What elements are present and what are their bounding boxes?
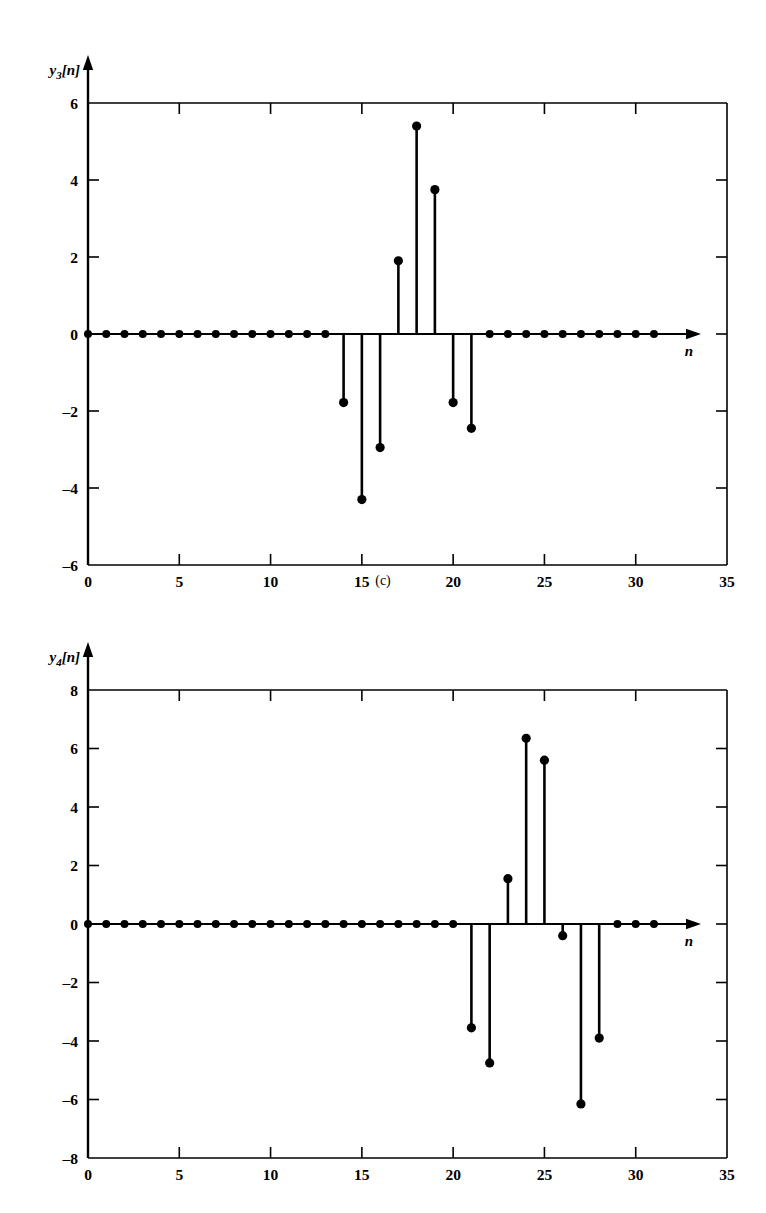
y-tick-label-0: 0 (70, 916, 78, 933)
data-point-n26 (559, 330, 567, 338)
y-axis-label: y3[n] (47, 62, 80, 81)
data-point-n12 (303, 920, 311, 928)
data-point-n4 (157, 920, 165, 928)
y-axis-label-text: y4[n] (47, 649, 80, 668)
data-point-n12 (303, 330, 311, 338)
data-point-n18 (413, 920, 421, 928)
data-point-n6 (194, 330, 202, 338)
data-point-n8 (230, 330, 238, 338)
data-point-n22 (485, 1058, 494, 1067)
data-point-n9 (248, 920, 256, 928)
stem-series (84, 122, 658, 505)
data-point-n25 (540, 756, 549, 765)
data-point-n1 (102, 330, 110, 338)
data-point-n3 (139, 330, 147, 338)
data-point-n11 (285, 920, 293, 928)
data-point-n7 (212, 330, 220, 338)
y-tick-label-4: 4 (70, 172, 78, 189)
x-axis-arrow-icon (686, 329, 701, 339)
data-point-n27 (577, 330, 585, 338)
chart-d: –8–6–4–20246805101520253035ny4[n] (0, 600, 766, 1213)
data-point-n14 (340, 920, 348, 928)
data-point-n5 (175, 920, 183, 928)
y-axis-label: y4[n] (47, 649, 80, 668)
data-point-n28 (595, 1033, 604, 1042)
y-axis-arrow-icon (83, 642, 93, 657)
y-tick-label--4: –4 (62, 1033, 79, 1050)
x-axis-label-n: n (685, 343, 693, 359)
data-point-n19 (431, 920, 439, 928)
data-point-n24 (522, 734, 531, 743)
data-point-n2 (121, 330, 129, 338)
data-point-n25 (540, 330, 548, 338)
panel-c-caption: (c) (0, 573, 766, 589)
x-tick-label-25: 25 (537, 1166, 553, 1183)
x-tick-label-10: 10 (263, 1166, 279, 1183)
x-tick-label-0: 0 (84, 1166, 92, 1183)
y-tick-label-8: 8 (70, 682, 78, 699)
data-point-n15 (358, 920, 366, 928)
data-point-n30 (632, 920, 640, 928)
data-point-n23 (503, 874, 512, 883)
data-point-n16 (376, 443, 385, 452)
chart-c: –6–4–2024605101520253035ny3[n] (0, 0, 766, 600)
x-tick-label-5: 5 (175, 1166, 183, 1183)
plot-panel-d: –8–6–4–20246805101520253035ny4[n] (d) (0, 600, 766, 1213)
data-point-n5 (175, 330, 183, 338)
data-point-n9 (248, 330, 256, 338)
data-point-n21 (467, 1023, 476, 1032)
data-point-n28 (595, 330, 603, 338)
y-tick-label-4: 4 (70, 799, 78, 816)
y-tick-label-2: 2 (70, 249, 78, 266)
data-point-n8 (230, 920, 238, 928)
data-point-n1 (102, 920, 110, 928)
data-point-n3 (139, 920, 147, 928)
data-point-n2 (121, 920, 129, 928)
y-tick-label--6: –6 (62, 1091, 79, 1108)
data-point-n0 (84, 330, 92, 338)
y-tick-label-0: 0 (70, 326, 78, 343)
x-axis-label-n: n (685, 933, 693, 949)
data-point-n13 (321, 920, 329, 928)
data-point-n13 (321, 330, 329, 338)
data-point-n30 (632, 330, 640, 338)
data-point-n6 (194, 920, 202, 928)
y-tick-label--4: –4 (62, 480, 79, 497)
y-tick-label--2: –2 (62, 403, 79, 420)
data-point-n7 (212, 920, 220, 928)
data-point-n10 (267, 330, 275, 338)
data-point-n21 (467, 424, 476, 433)
y-tick-label--2: –2 (62, 974, 79, 991)
x-tick-label-35: 35 (719, 1166, 735, 1183)
data-point-n29 (613, 330, 621, 338)
data-point-n14 (339, 398, 348, 407)
data-point-n26 (558, 931, 567, 940)
x-axis-arrow-icon (686, 919, 701, 929)
x-tick-label-20: 20 (445, 1166, 461, 1183)
data-point-n10 (267, 920, 275, 928)
y-tick-label-6: 6 (70, 95, 78, 112)
y-tick-label--6: –6 (62, 557, 79, 574)
data-point-n16 (376, 920, 384, 928)
data-point-n19 (430, 185, 439, 194)
data-point-n22 (486, 330, 494, 338)
data-point-n31 (650, 330, 658, 338)
data-point-n27 (576, 1099, 585, 1108)
data-point-n17 (394, 920, 402, 928)
x-tick-label-15: 15 (354, 1166, 370, 1183)
data-point-n20 (449, 920, 457, 928)
data-point-n24 (522, 330, 530, 338)
data-point-n29 (613, 920, 621, 928)
data-point-n23 (504, 330, 512, 338)
data-point-n4 (157, 330, 165, 338)
data-point-n15 (357, 495, 366, 504)
data-point-n11 (285, 330, 293, 338)
data-point-n0 (84, 920, 92, 928)
data-point-n20 (449, 398, 458, 407)
y-tick-label-6: 6 (70, 740, 78, 757)
y-tick-label--8: –8 (62, 1150, 79, 1167)
y-tick-label-2: 2 (70, 857, 78, 874)
x-tick-label-30: 30 (628, 1166, 644, 1183)
y-axis-label-text: y3[n] (47, 62, 80, 81)
data-point-n31 (650, 920, 658, 928)
